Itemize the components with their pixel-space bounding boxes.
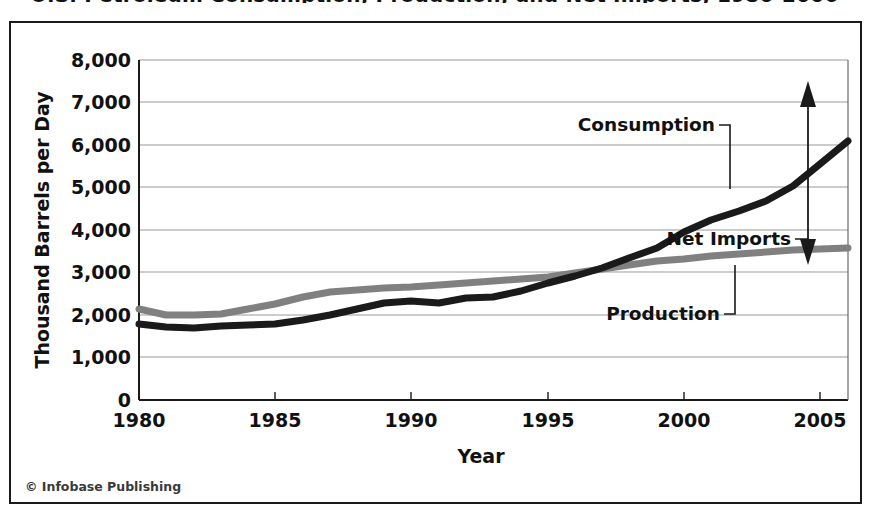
copyright-credit: © Infobase Publishing — [25, 479, 181, 494]
chart-frame: 8,000 7,000 6,000 5,000 4,000 3,000 2,00… — [9, 21, 862, 504]
series-line-production — [139, 248, 848, 315]
arrow-head-up — [800, 81, 816, 107]
x-tick-2000: 2000 — [658, 409, 711, 431]
x-tick-1985: 1985 — [249, 409, 302, 431]
x-tick-1990: 1990 — [385, 409, 438, 431]
annotation-net-imports-label: Net Imports — [667, 228, 791, 249]
annotation-production-label: Production — [606, 303, 720, 324]
x-tick-1995: 1995 — [522, 409, 575, 431]
y-tick-6000: 6,000 — [71, 134, 131, 156]
x-axis-title: Year — [456, 445, 505, 467]
x-tick-2005: 2005 — [794, 409, 847, 431]
y-axis-title: Thousand Barrels per Day — [31, 91, 53, 369]
x-tick-1980: 1980 — [113, 409, 166, 431]
chart-figure: U.S. Petroleum Consumption, Production, … — [0, 0, 869, 523]
annotation-consumption-label: Consumption — [578, 114, 715, 135]
x-tick-marks — [139, 392, 820, 400]
y-tick-5000: 5,000 — [71, 176, 131, 198]
y-tick-0: 0 — [118, 389, 131, 411]
x-tick-labels: 1980 1985 1990 1995 2000 2005 — [113, 409, 847, 431]
annotation-consumption: Consumption — [578, 114, 730, 189]
y-tick-1000: 1,000 — [71, 346, 131, 368]
annotation-net-imports: Net Imports — [667, 81, 816, 265]
chart-title: U.S. Petroleum Consumption, Production, … — [0, 0, 869, 3]
y-tick-4000: 4,000 — [71, 219, 131, 241]
y-tick-3000: 3,000 — [71, 261, 131, 283]
annotation-production: Production — [606, 265, 735, 324]
y-tick-7000: 7,000 — [71, 91, 131, 113]
y-tick-labels: 8,000 7,000 6,000 5,000 4,000 3,000 2,00… — [71, 49, 131, 411]
chart-plot-area: 8,000 7,000 6,000 5,000 4,000 3,000 2,00… — [11, 23, 860, 502]
y-tick-2000: 2,000 — [71, 304, 131, 326]
chart-title-text: U.S. Petroleum Consumption, Production, … — [30, 0, 838, 3]
y-tick-8000: 8,000 — [71, 49, 131, 71]
